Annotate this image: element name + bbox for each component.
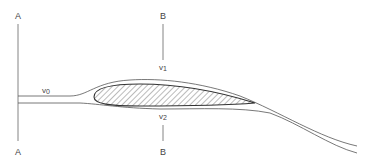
section-a-top-label: A [15, 11, 21, 21]
velocity-v2-label: v2 [159, 112, 167, 121]
lower-streamline [18, 103, 357, 153]
section-a-bottom-label: A [15, 147, 21, 157]
section-b-top-label: B [160, 11, 166, 21]
section-a: A A [15, 11, 21, 157]
airfoil-shape [94, 84, 255, 106]
section-b: B B [160, 11, 166, 157]
section-b-bottom-label: B [160, 147, 166, 157]
velocity-v1-label: v1 [159, 63, 167, 72]
velocity-v0-label: v0 [42, 86, 50, 95]
airfoil-diagram: A A B B v0 v1 v2 [0, 0, 372, 166]
